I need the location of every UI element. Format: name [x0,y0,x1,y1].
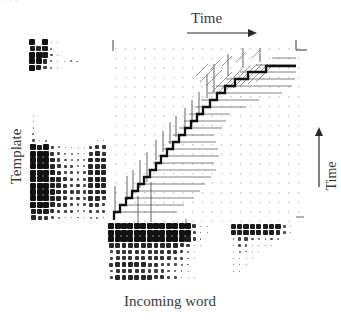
matrix-cell [64,210,67,213]
matrix-cell [37,151,43,157]
matrix-cell [148,250,152,254]
matrix-cell [37,189,43,195]
matrix-cell [83,203,86,206]
matrix-cell [200,245,201,246]
matrix-cell [101,158,106,163]
matrix-cell [77,210,79,212]
matrix-cell [64,61,65,62]
matrix-cell [37,145,42,150]
matrix-cell [108,236,114,242]
matrix-cell [70,165,73,168]
matrix-cell [256,230,261,235]
matrix-cell [179,236,185,242]
matrix-cell [121,230,127,236]
matrix-cell [127,223,133,229]
matrix-cell [134,275,139,280]
matrix-cell [135,250,139,254]
matrix-cell [32,133,34,135]
matrix-cell [64,171,67,174]
matrix-cell [263,224,268,229]
matrix-cell [258,251,259,252]
matrix-cell [243,224,248,229]
matrix-cell [141,262,146,267]
matrix-cell [102,203,105,206]
matrix-cell [70,210,73,213]
matrix-cell [71,217,72,218]
matrix-cell [95,196,100,201]
matrix-cell [200,226,201,227]
matrix-cell [37,183,43,189]
matrix-cell [154,250,158,254]
matrix-cell [173,243,178,248]
matrix-cell [180,257,183,260]
matrix-cell [71,153,73,155]
matrix-cell [96,210,99,213]
matrix-cell [70,190,74,194]
matrix-cell [57,67,58,68]
time-axis-label-top: Time [191,10,222,27]
matrix-cell [239,258,240,259]
matrix-cell [237,224,242,229]
matrix-cell [265,238,266,239]
matrix-cell [134,223,140,229]
matrix-cell [159,230,165,236]
matrix-cell [88,158,93,163]
matrix-cell [108,223,114,229]
matrix-cell [50,209,54,213]
matrix-cell [30,144,36,150]
matrix-cell [77,217,78,218]
matrix-cell [88,170,93,175]
matrix-cell [37,170,43,176]
matrix-cell [115,223,121,229]
matrix-cell [160,275,164,279]
matrix-cell [160,243,165,248]
matrix-cell [83,171,86,174]
matrix-cell [51,42,52,43]
matrix-cell [77,153,78,154]
matrix-cell [43,66,46,69]
matrix-cell [56,190,61,195]
matrix-cell [77,159,79,161]
matrix-cell [77,203,80,206]
matrix-cell [250,230,255,235]
matrix-cell [30,157,36,163]
matrix-cell [70,178,73,181]
matrix-cell [109,243,114,248]
matrix-cell [56,183,61,188]
matrix-cell [43,170,49,176]
matrix-cell [95,145,99,149]
matrix-cell [76,190,79,193]
matrix-cell [70,203,73,206]
matrix-cell [71,159,73,161]
matrix-cell [252,258,253,259]
matrix-cell [50,48,52,50]
matrix-cell [45,140,47,142]
template-axis-label: Template [8,122,25,192]
matrix-cell [153,236,159,242]
matrix-cell [30,195,36,201]
matrix-cell [153,223,159,229]
matrix-cell [50,196,55,201]
matrix-cell [88,177,93,182]
matrix-cell [50,60,52,62]
matrix-cell [36,52,42,58]
matrix-cell [84,147,85,148]
matrix-cell [174,257,177,260]
matrix-cell [128,250,132,254]
matrix-cell [84,217,85,218]
matrix-cell [115,230,121,236]
matrix-cell [76,61,77,62]
matrix-cell [160,256,164,260]
matrix-cell [29,39,35,45]
matrix-cell [128,275,133,280]
matrix-cell [179,230,185,236]
matrix-cell [207,226,208,227]
matrix-cell [95,183,100,188]
matrix-cell [181,270,182,271]
matrix-cell [128,269,132,273]
matrix-cell [77,171,80,174]
matrix-cell [83,184,86,187]
matrix-cell [89,146,92,149]
matrix-cell [256,224,261,229]
matrix-cell [102,210,105,213]
